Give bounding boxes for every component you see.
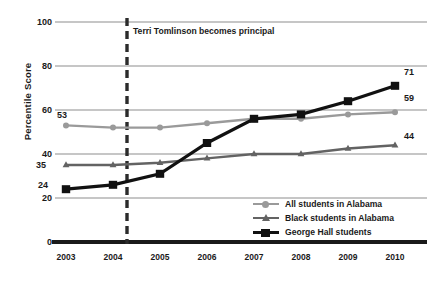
percentile-score-line-chart: Percentile Score 100 80 60 40 20 0 2003 … bbox=[0, 0, 446, 281]
marker-george-hall-2007 bbox=[250, 115, 258, 123]
legend-item-all-students: All students in Alabama bbox=[253, 197, 433, 211]
marker-george-hall-2003 bbox=[62, 185, 70, 193]
series-all-students-in-alabama bbox=[63, 109, 398, 130]
legend-label-george-hall: George Hall students bbox=[285, 227, 371, 237]
legend-label-black-students: Black students in Alabama bbox=[285, 213, 394, 223]
marker-george-hall-2009 bbox=[344, 97, 352, 105]
marker-all-students-2010 bbox=[392, 109, 398, 115]
marker-george-hall-2006 bbox=[203, 139, 211, 147]
marker-all-students-2003 bbox=[63, 122, 69, 128]
legend-label-all-students: All students in Alabama bbox=[285, 199, 382, 209]
legend-marker-triangle-icon bbox=[253, 212, 279, 224]
marker-george-hall-2010 bbox=[391, 82, 399, 90]
legend-item-george-hall: George Hall students bbox=[253, 225, 433, 239]
legend-marker-circle-icon bbox=[253, 198, 279, 210]
marker-george-hall-2005 bbox=[156, 170, 164, 178]
series-line-black-students bbox=[66, 145, 395, 165]
marker-all-students-2005 bbox=[157, 125, 163, 131]
series-george-hall-students bbox=[62, 82, 399, 193]
gridlines bbox=[55, 22, 427, 198]
marker-george-hall-2004 bbox=[109, 181, 117, 189]
marker-all-students-2009 bbox=[345, 111, 351, 117]
marker-george-hall-2008 bbox=[297, 110, 305, 118]
chart-legend: All students in Alabama Black students i… bbox=[253, 197, 433, 241]
marker-all-students-2004 bbox=[110, 125, 116, 131]
legend-item-black-students: Black students in Alabama bbox=[253, 211, 433, 225]
marker-all-students-2006 bbox=[204, 120, 210, 126]
legend-marker-square-icon bbox=[253, 226, 279, 238]
